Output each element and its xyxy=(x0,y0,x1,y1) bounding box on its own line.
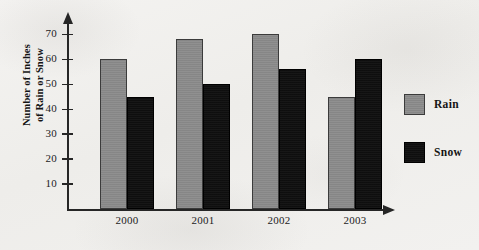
bar-rain-2002 xyxy=(252,34,279,209)
bar-rain-2003 xyxy=(328,97,355,209)
y-axis-tick xyxy=(62,158,73,160)
y-axis-tick-label: 20 xyxy=(17,152,57,164)
y-axis-tick xyxy=(62,84,73,86)
y-axis-tick xyxy=(62,183,73,185)
x-axis-label-2000: 2000 xyxy=(97,214,157,226)
bar-rain-2001 xyxy=(176,39,203,209)
legend-item-snow: Snow xyxy=(404,141,462,163)
bar-snow-2003 xyxy=(355,59,382,209)
y-axis-tick-label: 40 xyxy=(17,102,57,114)
x-axis-label-2001: 2001 xyxy=(173,214,233,226)
y-axis-tick-label: 60 xyxy=(17,52,57,64)
x-axis-label-2002: 2002 xyxy=(249,214,309,226)
chart-legend: RainSnow xyxy=(404,93,462,189)
y-axis-tick-label: 10 xyxy=(17,177,57,189)
y-axis-tick-label: 50 xyxy=(17,77,57,89)
x-axis-label-2003: 2003 xyxy=(325,214,385,226)
y-axis-tick-label: 30 xyxy=(17,127,57,139)
bar-snow-2002 xyxy=(279,69,306,209)
legend-label-rain: Rain xyxy=(434,98,459,110)
bar-snow-2001 xyxy=(203,84,230,209)
legend-swatch-rain xyxy=(404,94,425,115)
y-axis-tick xyxy=(62,133,73,135)
y-axis-tick xyxy=(62,34,73,36)
y-axis-line xyxy=(67,22,69,210)
y-axis-tick-label: 70 xyxy=(17,27,57,39)
rain-snow-bar-chart: Number of Inches of Rain or Snow 1020304… xyxy=(0,0,479,250)
bar-snow-2000 xyxy=(127,97,154,209)
y-axis-tick xyxy=(62,59,73,61)
x-axis-line xyxy=(67,209,385,211)
y-axis-arrow-icon xyxy=(63,12,73,24)
y-axis-tick xyxy=(62,109,73,111)
legend-item-rain: Rain xyxy=(404,93,462,115)
legend-label-snow: Snow xyxy=(434,146,462,158)
legend-swatch-snow xyxy=(404,142,425,163)
bar-rain-2000 xyxy=(100,59,127,209)
